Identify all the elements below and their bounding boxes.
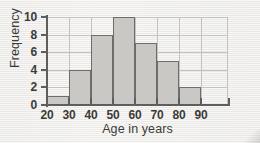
- x-tick-30: [68, 98, 70, 106]
- y-tick-8: [41, 34, 47, 36]
- y-axis-label: Frequency: [8, 0, 22, 84]
- bar-40-50: [91, 35, 113, 105]
- y-tick-4: [41, 69, 47, 71]
- x-tick-label-90: 90: [186, 108, 216, 122]
- x-axis-end-tick: [228, 98, 230, 106]
- x-tick-40: [90, 98, 92, 106]
- y-axis-line: [46, 15, 48, 107]
- bar-30-40: [69, 70, 91, 105]
- histogram-figure: 20 30 40 50 60 70 80 90 0 2 4 6 8 10 Age…: [0, 0, 260, 143]
- scan-corner-artifact: [244, 129, 260, 143]
- x-axis-label: Age in years: [47, 122, 228, 136]
- bar-70-80: [157, 61, 179, 105]
- y-tick-0: [41, 104, 47, 106]
- bar-50-60: [113, 17, 135, 105]
- bar-series: [47, 17, 228, 105]
- x-tick-90: [200, 98, 202, 106]
- x-tick-70: [156, 98, 158, 106]
- x-tick-60: [134, 98, 136, 106]
- plot-area: [47, 17, 228, 105]
- bar-60-70: [135, 43, 157, 105]
- y-tick-6: [41, 51, 47, 53]
- bar-80-90: [179, 87, 201, 105]
- x-tick-50: [112, 98, 114, 106]
- y-tick-10: [41, 16, 47, 18]
- x-axis-line: [46, 104, 230, 106]
- x-tick-80: [178, 98, 180, 106]
- y-tick-label-0: 0: [9, 98, 37, 112]
- y-tick-2: [41, 86, 47, 88]
